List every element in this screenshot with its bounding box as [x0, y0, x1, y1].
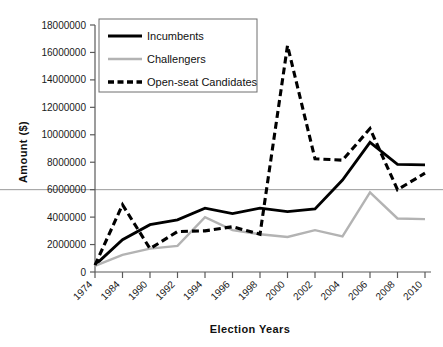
- y-axis-tick-label: 0: [80, 267, 86, 278]
- chart-canvas: 0200000040000006000000800000010000000120…: [0, 0, 443, 347]
- x-axis-tick-label: 2008: [373, 278, 397, 302]
- x-axis-tick-label: 1992: [153, 278, 177, 302]
- x-axis-tick-label: 2004: [318, 278, 342, 302]
- x-axis-tick-label: 1998: [236, 278, 260, 302]
- x-axis-tick-label: 1984: [98, 278, 122, 302]
- y-axis-tick-label: 6000000: [47, 184, 86, 195]
- y-axis-tick-label: 12000000: [42, 102, 87, 113]
- legend-label-incumbents: Incumbents: [147, 30, 204, 42]
- y-axis-tick-label: 14000000: [42, 74, 87, 85]
- x-axis-tick-label: 2000: [263, 278, 287, 302]
- y-axis-tick-label: 18000000: [42, 20, 87, 31]
- x-axis-tick-label: 1974: [71, 278, 95, 302]
- legend-label-challengers: Challengers: [147, 53, 206, 65]
- x-axis-tick-label: 2002: [291, 278, 315, 302]
- x-axis-tick-label: 2006: [346, 278, 370, 302]
- y-axis-tick-label: 10000000: [42, 129, 87, 140]
- x-axis-title: Election Years: [210, 323, 291, 335]
- x-axis-tick-label: 2010: [401, 278, 425, 302]
- series-line-incumbents: [95, 142, 425, 265]
- y-axis-tick-label: 4000000: [47, 212, 86, 223]
- x-axis-tick-label: 1996: [208, 278, 232, 302]
- x-axis-tick-label: 1994: [181, 278, 205, 302]
- legend-label-open-seat-candidates: Open-seat Candidates: [147, 76, 258, 88]
- y-axis-title: Amount ($): [17, 121, 29, 183]
- x-axis-tick-label: 1990: [126, 278, 150, 302]
- line-chart: 0200000040000006000000800000010000000120…: [0, 0, 443, 347]
- y-axis-tick-label: 2000000: [47, 239, 86, 250]
- y-axis-tick-label: 8000000: [47, 157, 86, 168]
- y-axis-tick-label: 16000000: [42, 47, 87, 58]
